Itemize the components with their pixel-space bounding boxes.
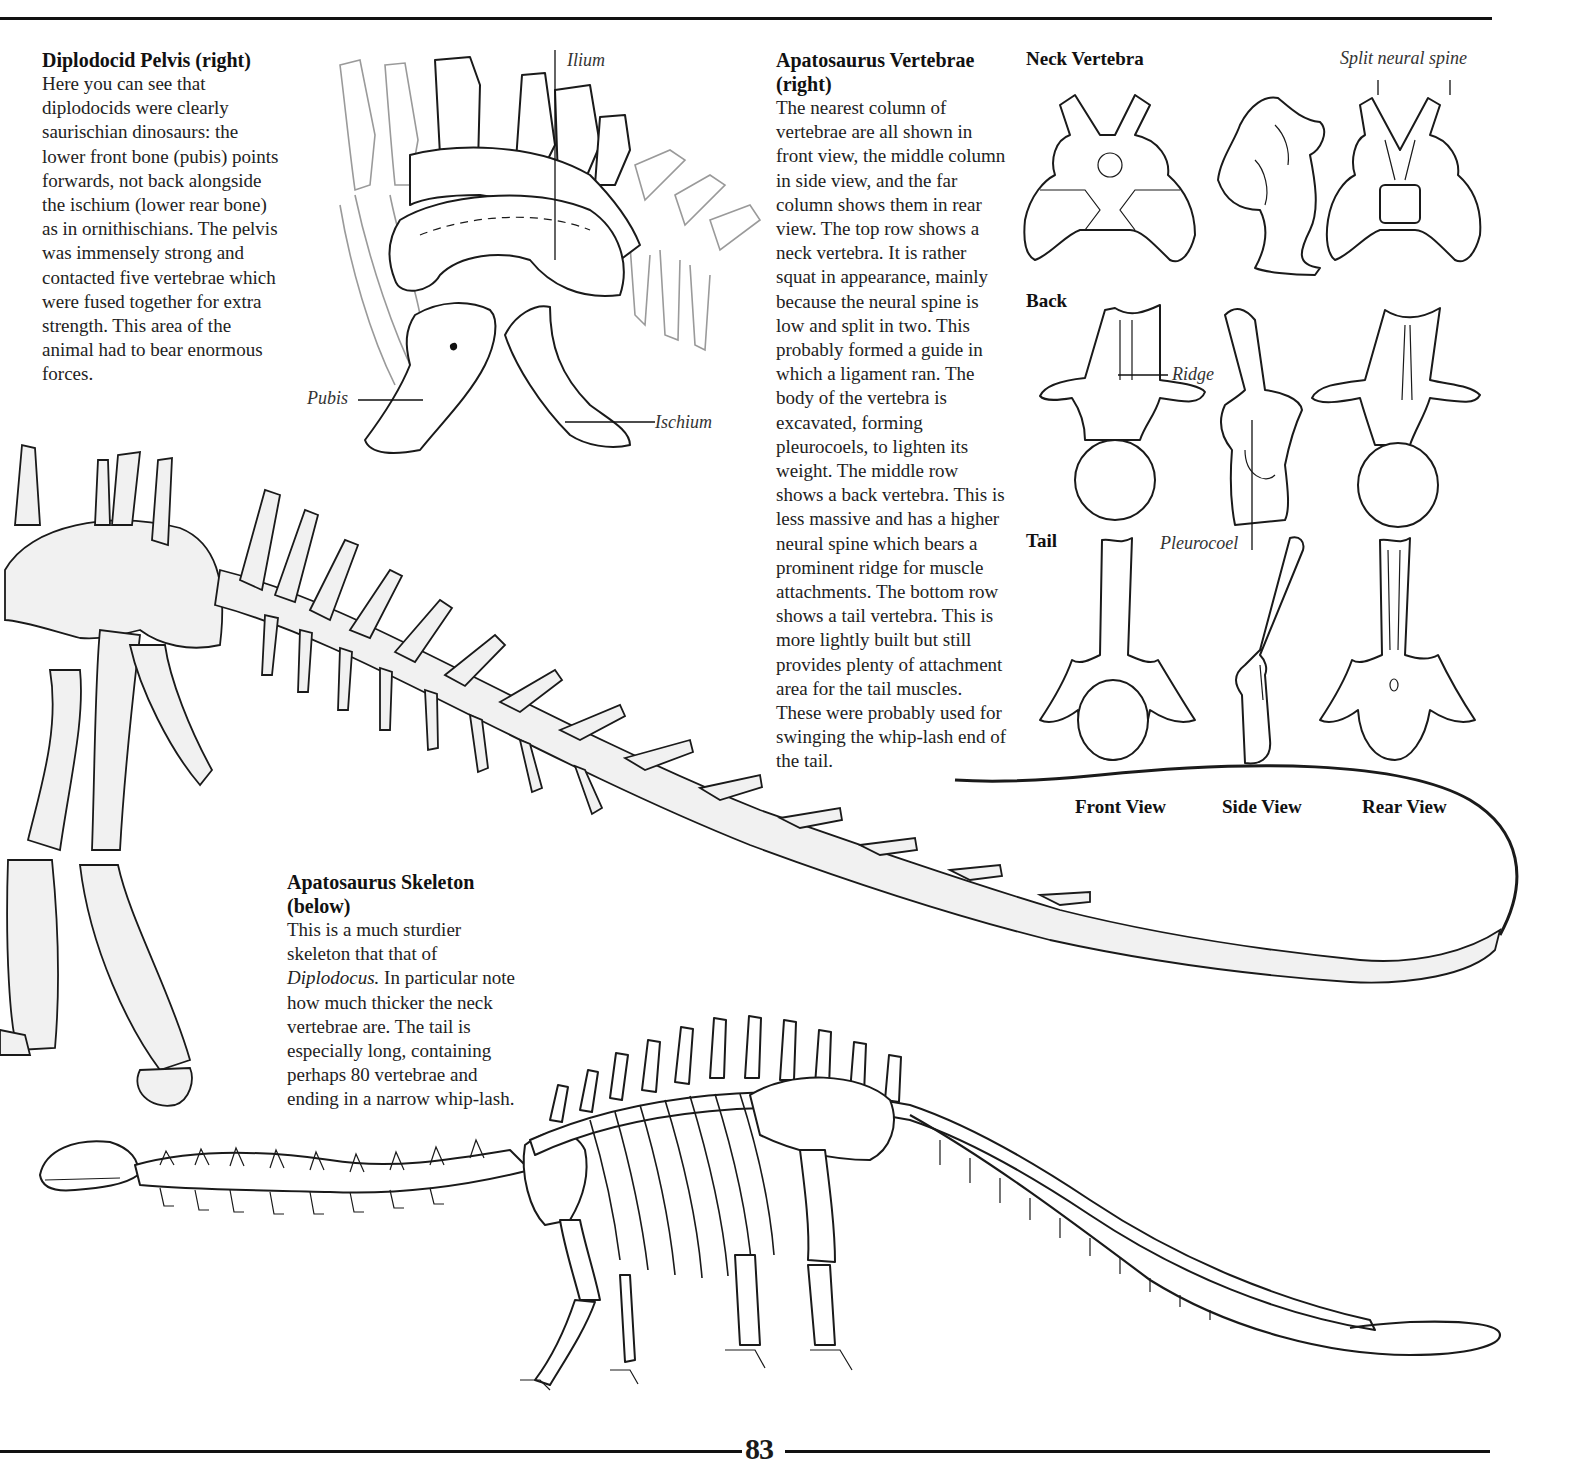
neck-vertebra-side	[1218, 97, 1324, 275]
tail-vertebra-side	[1236, 537, 1303, 763]
skeleton-body: This is a much sturdier skeleton that th…	[287, 918, 519, 1112]
vertebrae-text-block: Apatosaurus Vertebrae (right) The neares…	[776, 48, 1008, 774]
back-vertebra-rear	[1312, 308, 1480, 527]
column-label-rear-view: Rear View	[1362, 796, 1447, 818]
back-vertebra-side	[1221, 309, 1302, 525]
diplodocid-pelvis-diagram	[300, 45, 760, 475]
bottom-rule-right	[785, 1450, 1490, 1453]
column-label-side-view: Side View	[1222, 796, 1302, 818]
pelvis-text-block: Diplodocid Pelvis (right) Here you can s…	[42, 48, 282, 387]
pelvis-heading: Diplodocid Pelvis (right)	[42, 48, 282, 72]
apatosaurus-skeleton-illustration	[30, 1000, 1510, 1400]
vertebrae-diagram-grid	[1020, 80, 1490, 780]
skeleton-body-part2: In particular note how much thicker the …	[287, 967, 515, 1109]
pleurocoel-label: Pleurocoel	[1160, 533, 1238, 554]
bottom-rule-left	[0, 1450, 742, 1453]
skeleton-body-part1: This is a much sturdier skeleton that th…	[287, 919, 461, 964]
tail-vertebra-rear	[1320, 538, 1475, 760]
ridge-label: Ridge	[1172, 364, 1214, 385]
row-label-back: Back	[1026, 290, 1067, 312]
back-vertebra-front	[1040, 305, 1205, 520]
vertebrae-body: The nearest column of vertebrae are all …	[776, 96, 1008, 774]
neck-vertebra-front	[1024, 95, 1195, 261]
vertebrae-heading: Apatosaurus Vertebrae (right)	[776, 48, 1008, 96]
ischium-label: Ischium	[655, 412, 712, 433]
top-rule	[0, 17, 1492, 20]
page-number: 83	[745, 1432, 773, 1466]
diplodocus-italic: Diplodocus.	[287, 967, 379, 988]
skeleton-heading: Apatosaurus Skeleton (below)	[287, 870, 519, 918]
tail-vertebra-front	[1040, 538, 1195, 760]
row-label-tail: Tail	[1026, 530, 1057, 552]
column-label-front-view: Front View	[1075, 796, 1166, 818]
neck-vertebra-rear	[1327, 98, 1480, 261]
row-label-neck: Neck Vertebra	[1026, 48, 1144, 70]
skeleton-text-block: Apatosaurus Skeleton (below) This is a m…	[287, 870, 519, 1112]
ilium-label: Ilium	[567, 50, 605, 71]
pubis-label: Pubis	[307, 388, 348, 409]
split-neural-spine-label: Split neural spine	[1340, 48, 1467, 69]
pelvis-body: Here you can see that diplodocids were c…	[42, 72, 282, 387]
